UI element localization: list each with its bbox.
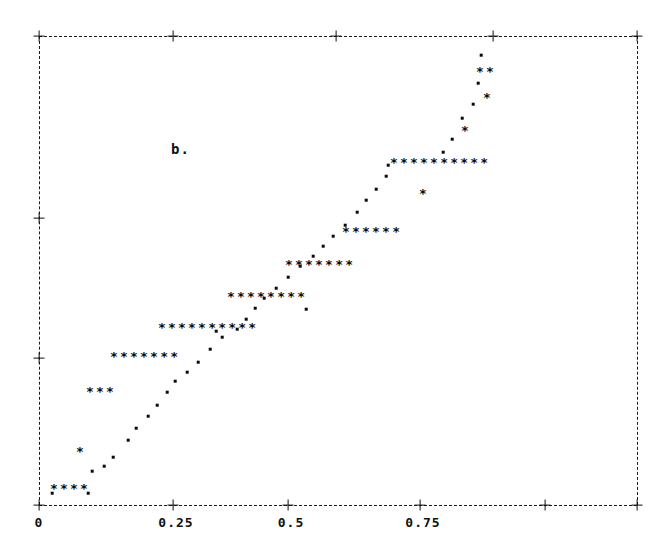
- star-run: ****: [50, 482, 90, 495]
- dot-point: [156, 404, 159, 407]
- x-tick-label-1: 0.25: [158, 515, 193, 530]
- x-tick-1: [283, 500, 294, 511]
- x-tick-2: [415, 500, 426, 511]
- dot-point: [480, 54, 483, 57]
- x-tick-label-2: 0.5: [278, 515, 304, 530]
- dot-point: [275, 287, 278, 290]
- dot-point: [356, 211, 359, 214]
- dot-point: [215, 330, 218, 333]
- star-point: *: [76, 445, 86, 458]
- dot-point: [299, 265, 302, 268]
- dot-point: [365, 199, 368, 202]
- dot-point: [305, 308, 308, 311]
- star-run: *******: [110, 350, 180, 363]
- x-tick-3: [540, 500, 551, 511]
- dot-point: [344, 224, 347, 227]
- star-run: ********: [227, 290, 307, 303]
- dot-point: [245, 318, 248, 321]
- x-tick-0: [168, 500, 179, 511]
- dot-point: [112, 456, 115, 459]
- x-tick-label-0: 0: [35, 515, 44, 530]
- star-point: *: [419, 187, 429, 200]
- dot-point: [472, 103, 475, 106]
- dot-point: [451, 138, 454, 141]
- dot-point: [87, 492, 90, 495]
- dot-point: [166, 391, 169, 394]
- panel-label: b.: [171, 141, 190, 157]
- corner-tick-top-left: [34, 31, 45, 42]
- corner-tick-top-right: [632, 31, 643, 42]
- dot-point: [322, 245, 325, 248]
- star-run: *******: [285, 258, 355, 271]
- star-point: *: [483, 91, 493, 104]
- dot-point: [127, 439, 130, 442]
- dot-point: [197, 361, 200, 364]
- plot-right-border: [637, 36, 638, 505]
- star-run: **********: [158, 321, 258, 334]
- y-tick-1: [34, 353, 45, 364]
- dot-point: [375, 188, 378, 191]
- dot-point: [287, 276, 290, 279]
- dot-point: [477, 82, 480, 85]
- dot-point: [312, 255, 315, 258]
- star-run: **********: [390, 156, 490, 169]
- dot-point: [461, 117, 464, 120]
- dot-point: [254, 307, 257, 310]
- x-tick-top-1: [331, 31, 342, 42]
- dot-point: [174, 380, 177, 383]
- dot-point: [147, 415, 150, 418]
- corner-tick-bottom-right: [632, 500, 643, 511]
- dot-point: [91, 470, 94, 473]
- dot-point: [186, 371, 189, 374]
- x-tick-top-2: [488, 31, 499, 42]
- plot-left-axis: [39, 36, 40, 505]
- dot-point: [103, 465, 106, 468]
- ascii-scatter-figure: 0 0.25 0.5 0.75 b. *********************…: [0, 0, 655, 550]
- star-run: ***: [86, 385, 116, 398]
- dot-point: [442, 151, 445, 154]
- star-point: *: [461, 124, 471, 137]
- dot-point: [385, 175, 388, 178]
- dot-point: [221, 336, 224, 339]
- corner-tick-bottom-left: [34, 500, 45, 511]
- dot-point: [209, 348, 212, 351]
- dot-point: [135, 427, 138, 430]
- dot-point: [236, 328, 239, 331]
- y-tick-0: [34, 213, 45, 224]
- x-tick-label-3: 0.75: [405, 515, 440, 530]
- dot-point: [387, 164, 390, 167]
- dot-point: [263, 297, 266, 300]
- x-tick-top-0: [168, 31, 179, 42]
- dot-point: [332, 235, 335, 238]
- dot-point: [51, 492, 54, 495]
- star-run: ******: [342, 225, 402, 238]
- star-run: **: [476, 65, 496, 78]
